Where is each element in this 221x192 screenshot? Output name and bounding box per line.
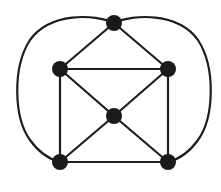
node-right bbox=[160, 61, 176, 77]
edge-top-left bbox=[60, 23, 114, 69]
graph-diagram bbox=[0, 0, 221, 192]
node-left bbox=[52, 61, 68, 77]
edge-top-right bbox=[114, 23, 168, 69]
edge-right-center bbox=[114, 69, 168, 116]
edge-top-bottom-right-curved bbox=[114, 17, 211, 162]
edges bbox=[17, 17, 211, 162]
edge-center-bottom-left bbox=[60, 116, 114, 162]
edge-center-bottom-right bbox=[114, 116, 168, 162]
node-bottom-left bbox=[52, 154, 68, 170]
edge-top-bottom-left-curved bbox=[17, 17, 114, 162]
edge-left-center bbox=[60, 69, 114, 116]
node-top bbox=[106, 15, 122, 31]
node-bottom-right bbox=[160, 154, 176, 170]
node-center bbox=[106, 108, 122, 124]
nodes bbox=[52, 15, 176, 170]
